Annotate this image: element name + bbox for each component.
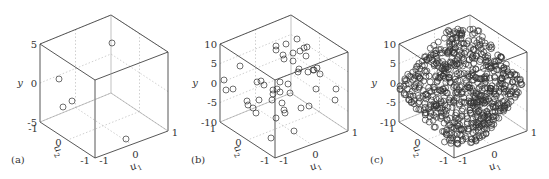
y-tick-label: 10 [383,39,396,50]
data-point [297,48,303,54]
svg-text:u2: u2 [49,143,66,159]
data-point [256,97,262,103]
u2-tick-label: -1 [439,155,449,166]
data-point [244,98,250,104]
scatter-points [56,40,129,142]
svg-text:u1: u1 [308,158,324,175]
y-tick-label: -5 [386,97,396,108]
data-point [333,86,339,92]
y-tick-label: 0 [390,78,396,89]
u1-tick-label: 0 [132,149,138,160]
data-point [268,135,274,141]
y-tick-label: 0 [31,78,37,89]
data-point [427,79,433,85]
y-tick-label: 5 [211,58,217,69]
u2-tick-label: -1 [260,155,270,166]
panel-a: 50-5y-10-1u2-101u1(a) [11,15,178,175]
data-point [332,97,338,103]
data-point [417,107,423,113]
scatter-points [397,26,525,147]
data-point [285,81,291,87]
y-tick-label: -5 [207,97,217,108]
u1-axis-label: u1 [308,158,324,175]
panel-label: (b) [191,154,205,165]
y-tick-label: 5 [31,39,37,50]
data-point [273,115,279,121]
data-point [417,82,423,88]
u1-tick-label: 1 [531,127,537,138]
panel-c: 1050-5-10y10-1u2-101u1(c) [370,15,537,175]
data-point [281,56,287,62]
u2-axis-label: u2 [49,143,66,159]
u2-tick-label: -1 [28,123,38,134]
figure: 50-5y-10-1u2-101u1(a)1050-5-10y10-1u2-10… [0,0,549,179]
svg-text:u2: u2 [229,143,246,159]
data-point [261,82,267,88]
u1-axis-label: u1 [128,158,144,175]
y-axis-label: y [16,77,23,88]
u1-axis-label: u1 [487,158,503,175]
data-point [287,90,293,96]
u1-tick-label: -1 [458,155,468,166]
panel-label: (c) [370,154,384,165]
data-point [280,52,286,58]
u2-axis-label: u2 [229,143,246,159]
grid-lines [40,15,168,145]
data-point [253,110,259,116]
data-point [441,35,447,41]
data-point [254,79,260,85]
data-point [283,41,289,47]
data-point [294,36,300,42]
data-point [277,79,283,85]
data-point [435,39,441,45]
data-point [313,86,319,92]
y-axis-label: y [370,77,377,88]
u2-axis-label: u2 [408,143,425,159]
y-tick-label: 0 [211,78,217,89]
data-point [303,53,309,59]
data-point [109,40,115,46]
data-point [237,63,243,69]
u2-tick-label: 1 [389,123,395,134]
svg-text:u2: u2 [408,143,425,159]
u1-tick-label: 1 [172,127,178,138]
u2-tick-label: 1 [210,123,216,134]
data-point [223,87,229,93]
grid-lines [220,15,348,145]
data-point [279,100,285,106]
svg-text:u1: u1 [128,158,144,175]
panel-label: (a) [11,154,25,165]
u2-tick-label: -1 [80,155,90,166]
u1-tick-label: 0 [312,149,318,160]
data-point [422,100,428,106]
svg-text:u1: u1 [487,158,503,175]
u1-tick-label: -1 [99,155,109,166]
data-point [273,47,279,53]
data-point [457,102,463,108]
data-point [258,78,264,84]
scatter-points [221,36,339,141]
y-axis-label: y [191,77,198,88]
data-point [221,77,227,83]
panel-b: 1050-5-10y10-1u2-101u1(b) [191,15,358,175]
y-tick-label: 10 [204,39,217,50]
u1-tick-label: -1 [279,155,289,166]
data-point [298,105,304,111]
data-point [60,104,66,110]
data-point [306,103,312,109]
u1-tick-label: 0 [491,149,497,160]
data-point [69,98,75,104]
u1-tick-label: 1 [352,127,358,138]
data-point [230,86,236,92]
data-point [317,71,323,77]
y-tick-label: 5 [390,58,396,69]
data-point [56,76,62,82]
